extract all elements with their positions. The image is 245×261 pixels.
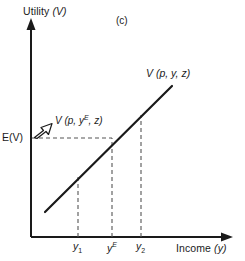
x-axis-title: Income (y) xyxy=(176,243,227,254)
annotation-label-head: V (p, xyxy=(55,115,79,126)
x-tick-label-ye: yE xyxy=(107,241,117,253)
utility-line xyxy=(45,86,172,212)
y-axis-arrowhead xyxy=(27,18,36,30)
y-axis-title: Utility (V) xyxy=(23,6,67,17)
x-axis-title-paren: (y) xyxy=(214,242,227,254)
panel-tag: (c) xyxy=(116,16,128,26)
x-tick-label-y1: y1 xyxy=(73,241,82,254)
y-axis-title-paren: (V) xyxy=(52,5,66,17)
x-tick-ye-superscript: E xyxy=(112,241,117,248)
curve-label-head: V (p, xyxy=(146,67,171,79)
annotation-arrow-icon xyxy=(35,124,53,139)
x-tick-label-y2: y2 xyxy=(136,241,145,254)
annotation-label: V (p, yE, z) xyxy=(55,114,102,126)
x-axis-arrowhead xyxy=(221,233,233,242)
y-axis-value-ev: E(V) xyxy=(2,132,23,143)
y-axis-title-text: Utility xyxy=(23,5,49,17)
x-axis xyxy=(31,233,233,242)
curve-label-tail: , z) xyxy=(176,67,191,79)
x-tick-y1-subscript: 1 xyxy=(78,247,82,254)
x-tick-y2-subscript: 2 xyxy=(141,247,145,254)
annotation-label-tail: , z) xyxy=(89,115,103,126)
figure-panel-c: Utility (V) (c) V (p, y, z) V (p, yE, z)… xyxy=(0,0,245,261)
curve-label: V (p, y, z) xyxy=(146,68,190,79)
y-axis xyxy=(27,18,36,237)
x-axis-title-text: Income xyxy=(176,242,211,254)
figure-canvas xyxy=(0,0,245,261)
